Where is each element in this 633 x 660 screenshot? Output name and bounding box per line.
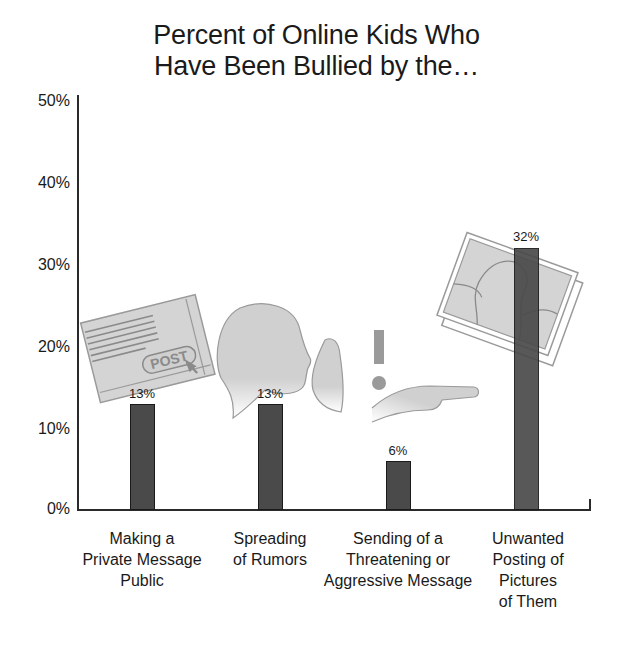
bar-value-label: 13%: [240, 386, 300, 401]
y-axis: [77, 95, 79, 511]
bar-making-private-message-public: [130, 404, 155, 510]
tilted-photos-icon: [432, 230, 592, 375]
bar-threatening-message: [386, 461, 411, 510]
whispering-head-icon: [215, 300, 360, 430]
title-line-2: Have Been Bullied by the…: [0, 51, 633, 82]
x-label-making-private-message-public: Making a Private Message Public: [72, 528, 212, 591]
chart-title: Percent of Online Kids Who Have Been Bul…: [0, 20, 633, 82]
y-tick-30: 30%: [20, 256, 70, 274]
x-label-threatening-message: Sending of a Threatening or Aggressive M…: [312, 528, 484, 591]
bar-value-label: 32%: [496, 229, 556, 244]
y-tick-20: 20%: [20, 338, 70, 356]
y-tick-10: 10%: [20, 420, 70, 438]
y-tick-0: 0%: [20, 500, 70, 518]
y-tick-50: 50%: [20, 92, 70, 110]
x-label-spreading-of-rumors: Spreading of Rumors: [220, 528, 320, 570]
bar-value-label: 13%: [112, 386, 172, 401]
bar-value-label: 6%: [368, 443, 428, 458]
bar-spreading-of-rumors: [258, 404, 283, 510]
title-line-1: Percent of Online Kids Who: [0, 20, 633, 51]
x-label-unwanted-posting-pictures: Unwanted Posting of Pictures of Them: [478, 528, 578, 612]
y-tick-40: 40%: [20, 174, 70, 192]
bar-unwanted-posting-pictures: [514, 248, 539, 510]
x-axis-end-tick: [589, 499, 591, 511]
